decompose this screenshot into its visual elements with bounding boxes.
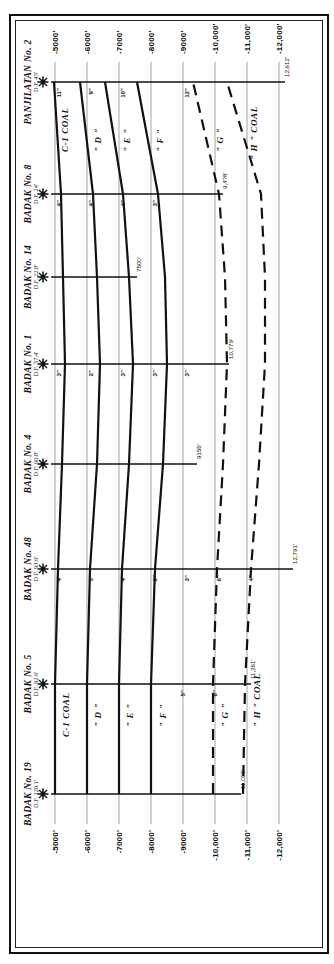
seam-label: " E ": [125, 704, 135, 728]
seam-label: C-1 COAL: [60, 107, 70, 152]
depth-tick-label: -7000': [115, 830, 124, 854]
depth-tick-label: -6000': [83, 830, 92, 854]
seam-line-d: " D " " D ": [80, 82, 103, 794]
depth-tick-label: -5000': [51, 30, 60, 54]
derrick-star-icon: [38, 789, 49, 800]
total-depth-label: 9,4?8': [221, 172, 228, 189]
derrick-star-icon: [38, 189, 49, 200]
total-depth-label: 10,779': [227, 339, 234, 359]
total-depth-label: 12,791': [291, 544, 298, 564]
seam-thickness-label: 10": [119, 88, 126, 98]
well-datum-label: D.F. 93.6': [32, 557, 39, 582]
seam-label: " H " COAL: [252, 673, 262, 727]
depth-axis-labels-right: -5000' -6000' -7000' -8000' -9000' -10,0…: [51, 23, 284, 54]
derrick-star-icon: [38, 77, 49, 88]
seam-thickness-label: 11": [55, 88, 62, 98]
derrick-star-icon: [38, 564, 49, 575]
depth-tick-label: -7000': [115, 30, 124, 54]
depth-tick-label: -9000': [179, 30, 188, 54]
seam-label: C-1 COAL: [61, 692, 71, 737]
depth-tick-label: -8000': [147, 830, 156, 854]
seam-label: " F ": [155, 129, 165, 152]
seam-thickness-label: 3": [119, 370, 126, 376]
seam-thickness-label: 12": [183, 88, 190, 98]
seam-thickness-label: 3": [151, 370, 158, 376]
derrick-star-icon: [38, 679, 49, 690]
seam-label: " H " COAL: [249, 106, 259, 160]
well-datum-label: D.F. 92.6': [32, 672, 39, 697]
depth-tick-label: -10,000': [211, 830, 220, 861]
well-badak-4[interactable]: BADAK No. 4 D.F. 60.8' 9155': [23, 435, 202, 495]
seam-line-c1: C-1 COAL C-1 COAL: [54, 82, 71, 794]
seam-label: " G ": [215, 128, 225, 152]
depth-tick-label: -6000': [83, 30, 92, 54]
total-depth-label: 9155': [195, 444, 202, 459]
depth-tick-label: -8000': [147, 30, 156, 54]
depth-tick-label: -10,000': [211, 23, 220, 54]
seam-label: " E ": [122, 129, 132, 153]
seam-thickness-label: 9": [87, 88, 94, 94]
seam-line-f: " F " " F ": [137, 82, 168, 794]
seam-label: " G ": [220, 703, 230, 727]
seam-thickness-label: 3": [183, 370, 190, 376]
well-datum-label: D.F. 60.8': [32, 452, 39, 477]
depth-tick-label: -9000': [179, 830, 188, 854]
seam-line-h: " H " COAL " H " COAL: [227, 82, 265, 794]
seam-label: " D ": [93, 128, 103, 152]
well-datum-label: D.F. 24': [32, 184, 39, 204]
seam-label: " D ": [93, 703, 103, 727]
figure-plate: -5000' -6000' -7000' -8000' -9000' -10,0…: [0, 0, 334, 964]
seam-thickness-label: 3": [55, 370, 62, 376]
well-badak-48[interactable]: BADAK No. 48 D.F. 93.6' 12,791' 4" 5" 4"…: [23, 537, 298, 602]
depth-axis-labels-left: -5000' -6000' -7000' -8000' -9000' -10,0…: [51, 830, 284, 861]
depth-tick-label: -12,000': [275, 830, 284, 861]
seam-thickness-label: 3": [151, 200, 158, 206]
cross-section-stage: -5000' -6000' -7000' -8000' -9000' -10,0…: [17, 22, 317, 942]
seam-line-e: " E " " E ": [105, 82, 135, 794]
derrick-star-icon: [38, 272, 49, 283]
well-datum-label: D.F. 22.8': [32, 265, 39, 290]
total-depth-label: 7500': [135, 257, 142, 272]
well-datum-label: D.F. 120.1': [32, 780, 39, 808]
depth-tick-label: -11,000': [243, 830, 252, 860]
cross-section-svg: -5000' -6000' -7000' -8000' -9000' -10,0…: [17, 22, 317, 942]
seam-label: " F ": [158, 704, 168, 727]
well-datum-label: D.F. 45': [32, 72, 39, 92]
seam-thickness-label: 5": [179, 690, 186, 696]
total-depth-label: 12,612': [283, 57, 290, 77]
depth-tick-label: -11,000': [243, 24, 252, 54]
derrick-star-icon: [38, 459, 49, 470]
well-datum-label: D.F. 57.4': [32, 352, 39, 377]
depth-tick-label: -12,000': [275, 23, 284, 54]
seam-thickness-label: 2": [87, 370, 94, 376]
depth-tick-label: -5000': [51, 830, 60, 854]
seam-thickness-label: 3": [183, 575, 190, 581]
derrick-star-icon: [38, 359, 49, 370]
well-badak-14[interactable]: BADAK No. 14 D.F. 22.8' 7500': [23, 245, 142, 310]
